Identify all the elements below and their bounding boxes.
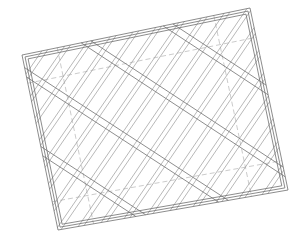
drawing-background (0, 0, 302, 245)
cad-drawing-canvas (0, 0, 302, 245)
